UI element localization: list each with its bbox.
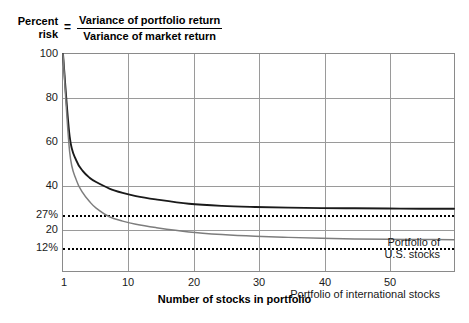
curve-international-stocks xyxy=(63,54,454,240)
y-tick-27-percent: 27% xyxy=(36,208,58,220)
y-tick-100: 100 xyxy=(40,47,58,59)
formula-fraction: Variance of portfolio return Variance of… xyxy=(77,14,222,43)
formula-denominator: Variance of market return xyxy=(81,29,218,43)
x-axis-title: Number of stocks in portfolio xyxy=(0,293,469,305)
annotation-us-line1: Portfolio of xyxy=(384,236,440,248)
y-tick-12-percent: 12% xyxy=(36,241,58,253)
equals-sign: = xyxy=(64,20,71,36)
curve-us-stocks xyxy=(63,54,454,209)
y-axis-labels: 100 80 60 40 20 27% 12% xyxy=(0,0,58,323)
y-tick-80: 80 xyxy=(46,91,58,103)
annotation-us-line2: U.S. stocks xyxy=(384,248,440,260)
y-tick-40: 40 xyxy=(46,179,58,191)
x-tick-30: 30 xyxy=(253,276,265,288)
y-tick-60: 60 xyxy=(46,135,58,147)
x-tick-10: 10 xyxy=(122,276,134,288)
y-tick-20: 20 xyxy=(46,223,58,235)
annotation-us-stocks: Portfolio of U.S. stocks xyxy=(384,236,440,260)
x-tick-20: 20 xyxy=(188,276,200,288)
x-tick-40: 40 xyxy=(319,276,331,288)
x-tick-50: 50 xyxy=(384,276,396,288)
chart-page: Percent risk = Variance of portfolio ret… xyxy=(0,0,469,323)
x-tick-1: 1 xyxy=(61,276,67,288)
plot-area: Portfolio of U.S. stocks Portfolio of in… xyxy=(62,53,455,272)
formula-numerator: Variance of portfolio return xyxy=(77,14,222,28)
